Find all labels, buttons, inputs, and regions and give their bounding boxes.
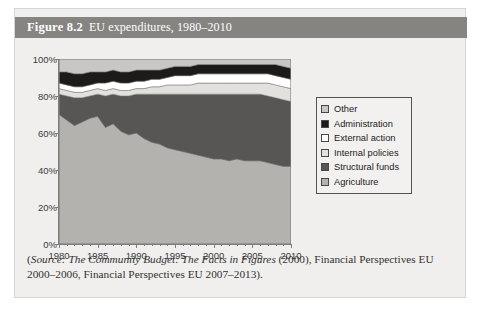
- legend-swatch-icon: [321, 163, 329, 171]
- x-axis-tick-mark: [136, 244, 137, 248]
- source-note: (Source:The Community Budget: The Facts …: [27, 252, 455, 282]
- y-axis-tick-mark: [55, 59, 59, 60]
- legend-item-label: External action: [334, 133, 396, 143]
- chart-region: 0%20%40%60%80%100% 198019851990199520002…: [15, 38, 467, 246]
- source-note-title: The Community Budget: The Facts in Figur…: [68, 253, 275, 265]
- legend-swatch-icon: [321, 120, 329, 128]
- x-axis-minor-tick: [67, 244, 68, 246]
- x-axis-minor-tick: [276, 244, 277, 246]
- stacked-area-plot: [59, 59, 291, 244]
- legend-item-label: Internal policies: [334, 148, 399, 158]
- figure-title: EU expenditures, 1980–2010: [89, 20, 232, 35]
- x-axis-minor-tick: [190, 244, 191, 246]
- legend-item-external-action[interactable]: External action: [321, 131, 407, 146]
- x-axis-minor-tick: [237, 244, 238, 246]
- y-axis-tick-label: 100%: [23, 54, 57, 65]
- x-axis-minor-tick: [260, 244, 261, 246]
- legend-item-label: Administration: [334, 119, 393, 129]
- x-axis-minor-tick: [144, 244, 145, 246]
- plot-area: 1980198519901995200020052010: [58, 59, 291, 245]
- legend-item-agriculture[interactable]: Agriculture: [321, 175, 407, 190]
- y-axis: 0%20%40%60%80%100%: [19, 38, 57, 246]
- x-axis-minor-tick: [152, 244, 153, 246]
- x-axis-tick-mark: [59, 244, 60, 248]
- figure-card: Figure 8.2 EU expenditures, 1980–2010 0%…: [14, 8, 466, 298]
- x-axis-tick-mark: [291, 244, 292, 248]
- x-axis-tick-mark: [214, 244, 215, 248]
- x-axis-minor-tick: [229, 244, 230, 246]
- legend-swatch-icon: [321, 178, 329, 186]
- x-axis-minor-tick: [90, 244, 91, 246]
- legend-item-other[interactable]: Other: [321, 102, 407, 117]
- x-axis-minor-tick: [268, 244, 269, 246]
- x-axis-tick-mark: [175, 244, 176, 248]
- area-chart-svg: [59, 59, 291, 244]
- x-axis-minor-tick: [206, 244, 207, 246]
- x-axis-tick-mark: [252, 244, 253, 248]
- x-axis-minor-tick: [160, 244, 161, 246]
- x-axis-minor-tick: [82, 244, 83, 246]
- x-axis-minor-tick: [283, 244, 284, 246]
- x-axis-minor-tick: [113, 244, 114, 246]
- x-axis-minor-tick: [221, 244, 222, 246]
- y-axis-tick-label: 20%: [23, 202, 57, 213]
- legend-swatch-icon: [321, 149, 329, 157]
- legend-item-internal-policies[interactable]: Internal policies: [321, 146, 407, 161]
- legend-item-administration[interactable]: Administration: [321, 117, 407, 132]
- x-axis-minor-tick: [245, 244, 246, 246]
- y-axis-tick-label: 60%: [23, 128, 57, 139]
- x-axis-minor-tick: [167, 244, 168, 246]
- source-note-label: Source:: [31, 253, 66, 265]
- legend-swatch-icon: [321, 134, 329, 142]
- y-axis-tick-label: 40%: [23, 165, 57, 176]
- x-axis-minor-tick: [183, 244, 184, 246]
- x-axis-minor-tick: [74, 244, 75, 246]
- y-axis-tick-mark: [55, 207, 59, 208]
- x-axis-minor-tick: [198, 244, 199, 246]
- x-axis-minor-tick: [121, 244, 122, 246]
- figure-number: Figure 8.2: [27, 20, 83, 35]
- y-axis-tick-label: 80%: [23, 91, 57, 102]
- y-axis-tick-mark: [55, 133, 59, 134]
- legend-item-label: Other: [334, 104, 357, 114]
- legend-item-label: Structural funds: [334, 162, 399, 172]
- legend-swatch-icon: [321, 105, 329, 113]
- x-axis-tick-mark: [98, 244, 99, 248]
- y-axis-tick-label: 0%: [23, 239, 57, 250]
- y-axis-tick-mark: [55, 170, 59, 171]
- figure-header: Figure 8.2 EU expenditures, 1980–2010: [15, 17, 467, 38]
- chart-legend: OtherAdministrationExternal actionIntern…: [316, 97, 412, 194]
- x-axis-minor-tick: [129, 244, 130, 246]
- legend-item-label: Agriculture: [334, 177, 378, 187]
- x-axis-minor-tick: [105, 244, 106, 246]
- legend-item-structural-funds[interactable]: Structural funds: [321, 160, 407, 175]
- y-axis-tick-mark: [55, 96, 59, 97]
